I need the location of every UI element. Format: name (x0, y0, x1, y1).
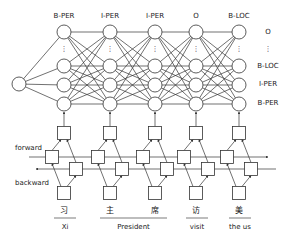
crf-tag-node (189, 97, 203, 111)
crf-start-node (12, 77, 26, 91)
crf-tag-node (189, 59, 203, 73)
bilstm-crf-diagram: ⋮B-PER⋮I-PER⋮I-PER⋮O⋮B-LOCO⋮B-LOCI-PERB-… (0, 0, 288, 240)
ellipsis-icon: ⋮ (61, 45, 68, 53)
english-gloss: the us (229, 223, 251, 231)
backward-label: backward (15, 179, 49, 187)
chinese-token: 习 (60, 206, 68, 215)
crf-tag-node (232, 97, 246, 111)
input-embedding-box (58, 187, 71, 200)
bilstm-layer (29, 112, 276, 200)
crf-tag-node (57, 59, 71, 73)
crf-tag-node (232, 59, 246, 73)
crf-tag-node (232, 78, 246, 92)
crf-transition-edges (19, 32, 239, 104)
crf-selected-tag-node (57, 25, 71, 39)
crf-tag-node (103, 78, 117, 92)
input-embedding-box (104, 187, 117, 200)
forward-lstm-cell (178, 151, 191, 164)
backward-lstm-cell (161, 163, 174, 176)
tag-set-label: O (265, 28, 271, 36)
crf-tag-node (189, 78, 203, 92)
input-embedding-box (233, 187, 246, 200)
backward-lstm-cell (116, 163, 129, 176)
chinese-token: 访 (192, 205, 200, 215)
ellipsis-icon: ⋮ (193, 45, 200, 53)
predicted-tag-label: B-PER (54, 12, 75, 20)
forward-lstm-cell (221, 151, 234, 164)
predicted-tag-label: B-LOC (228, 12, 249, 20)
crf-tag-node (57, 78, 71, 92)
crf-tag-node (148, 59, 162, 73)
english-gloss: President (117, 223, 150, 231)
backward-lstm-cell (202, 163, 215, 176)
predicted-tag-label: O (193, 12, 199, 20)
crf-selected-tag-node (189, 25, 203, 39)
backward-lstm-cell (70, 163, 83, 176)
forward-label: forward (15, 144, 42, 152)
english-gloss: Xi (62, 223, 69, 231)
tag-set-label: I-PER (259, 80, 277, 88)
input-embedding-box (190, 187, 203, 200)
forward-lstm-cell (46, 151, 59, 164)
output-box (149, 127, 162, 140)
predicted-tag-label: I-PER (101, 12, 119, 20)
crf-tag-node (148, 97, 162, 111)
ellipsis-icon: ⋮ (152, 45, 159, 53)
crf-selected-tag-node (232, 25, 246, 39)
crf-selected-tag-node (103, 25, 117, 39)
tag-set-label: B-LOC (257, 62, 278, 70)
chinese-token: 主 (106, 205, 114, 215)
crf-tag-node (57, 97, 71, 111)
chinese-token: 席 (151, 205, 159, 215)
forward-lstm-cell (92, 151, 105, 164)
crf-tag-node (103, 97, 117, 111)
forward-lstm-cell (137, 151, 150, 164)
output-box (190, 127, 203, 140)
crf-tag-node (148, 78, 162, 92)
output-box (58, 127, 71, 140)
crf-tag-node (103, 59, 117, 73)
predicted-tag-label: I-PER (146, 12, 164, 20)
chinese-token: 美 (235, 205, 243, 215)
tag-set-label: ⋮ (265, 45, 272, 53)
ellipsis-icon: ⋮ (236, 45, 243, 53)
backward-lstm-cell (245, 163, 258, 176)
output-box (233, 127, 246, 140)
crf-selected-tag-node (148, 25, 162, 39)
crf-tag-nodes (12, 25, 246, 111)
ellipsis-icon: ⋮ (107, 45, 114, 53)
english-gloss: visit (190, 223, 205, 231)
input-embedding-box (149, 187, 162, 200)
output-box (104, 127, 117, 140)
tag-set-label: B-PER (258, 99, 279, 107)
